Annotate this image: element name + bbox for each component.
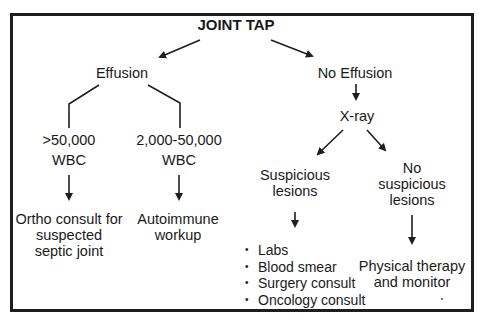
node-no-effusion: No Effusion bbox=[318, 65, 393, 81]
node-wbc-mid: 2,000-50,000 WBC bbox=[136, 132, 221, 168]
no-suspicious-line-1: No bbox=[378, 160, 446, 176]
action-blood-smear: Blood smear bbox=[258, 259, 365, 276]
autoimmune-line-1: Autoimmune bbox=[137, 211, 218, 227]
autoimmune-line-2: workup bbox=[137, 227, 218, 243]
no-suspicious-line-2: suspicious bbox=[378, 176, 446, 192]
ortho-line-1: Ortho consult for bbox=[15, 211, 122, 227]
suspicious-line-2: lesions bbox=[260, 183, 330, 199]
suspicious-line-1: Suspicious bbox=[260, 167, 330, 183]
ortho-line-3: septic joint bbox=[15, 243, 122, 259]
ortho-line-2: suspected bbox=[15, 227, 122, 243]
action-oncology-consult: Oncology consult bbox=[258, 292, 365, 309]
suspicious-actions-list: Labs Blood smear Surgery consult Oncolog… bbox=[258, 242, 365, 308]
wbc-high-unit: WBC bbox=[43, 152, 96, 168]
node-physical-therapy: Physical therapy and monitor bbox=[359, 258, 465, 290]
wbc-mid-unit: WBC bbox=[136, 152, 221, 168]
node-suspicious-lesions: Suspicious lesions bbox=[260, 167, 330, 199]
wbc-mid-value: 2,000-50,000 bbox=[136, 132, 221, 148]
node-effusion: Effusion bbox=[96, 65, 148, 81]
node-no-suspicious-lesions: No suspicious lesions bbox=[378, 160, 446, 208]
speck-mark bbox=[441, 298, 443, 300]
node-ortho-consult: Ortho consult for suspected septic joint bbox=[15, 211, 122, 259]
pt-line-1: Physical therapy bbox=[359, 258, 465, 274]
wbc-high-value: >50,000 bbox=[43, 132, 96, 148]
action-surgery-consult: Surgery consult bbox=[258, 275, 365, 292]
node-autoimmune-workup: Autoimmune workup bbox=[137, 211, 218, 243]
no-suspicious-line-3: lesions bbox=[378, 192, 446, 208]
action-labs: Labs bbox=[258, 242, 365, 259]
node-wbc-high: >50,000 WBC bbox=[43, 132, 96, 168]
title-joint-tap: JOINT TAP bbox=[197, 17, 274, 33]
pt-line-2: and monitor bbox=[359, 274, 465, 290]
node-xray: X-ray bbox=[340, 108, 375, 124]
